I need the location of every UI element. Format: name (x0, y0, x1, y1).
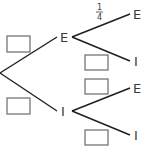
node-label-IE: E (133, 81, 141, 96)
answer-box-E-I[interactable] (85, 55, 108, 70)
node-label-stage1-E: E (60, 30, 68, 45)
fraction-label-EE: 1 4 (96, 3, 103, 22)
node-label-EE: E (133, 7, 141, 22)
node-label-II: I (134, 128, 138, 143)
answer-box-I-E[interactable] (85, 79, 108, 94)
answer-box-I-I[interactable] (85, 130, 108, 145)
node-label-stage1-I: I (61, 104, 65, 119)
fraction-denominator: 4 (97, 13, 102, 22)
node-label-EI: I (134, 54, 138, 69)
fraction-numerator: 1 (97, 3, 102, 12)
answer-box-root-I[interactable] (7, 98, 30, 114)
answer-box-root-E[interactable] (7, 36, 30, 52)
probability-tree-diagram: E I E I E I 1 4 (0, 0, 144, 148)
